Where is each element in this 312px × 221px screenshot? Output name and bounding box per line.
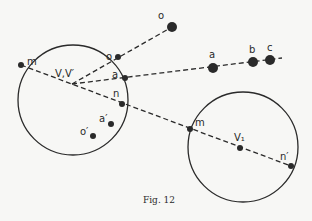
point-outer-a — [208, 63, 218, 73]
point-left-a-prime — [108, 121, 114, 127]
point-left-o-prime — [90, 133, 96, 139]
point-left-a — [122, 75, 128, 81]
figure-caption: Fig. 12 — [143, 195, 175, 205]
fig-12-diagram: m V,V′ o a n a′ o′ o a b c m V₁ n′ Fig. … — [0, 0, 312, 221]
label-left-a: a — [112, 69, 118, 80]
label-left-o: o — [106, 51, 112, 62]
label-left-n: n — [113, 88, 119, 99]
label-outer-a: a — [209, 49, 215, 60]
label-left-m: m — [27, 56, 37, 67]
label-left-o-prime: o′ — [80, 126, 89, 137]
point-right-m — [187, 126, 193, 132]
label-outer-o: o — [158, 10, 164, 21]
point-left-n — [119, 101, 125, 107]
point-outer-b — [248, 57, 258, 67]
point-outer-c — [265, 55, 275, 65]
point-left-m — [18, 62, 24, 68]
point-left-o — [115, 54, 121, 60]
ray-m-to-n-prime — [21, 65, 291, 166]
label-right-m: m — [195, 117, 205, 128]
point-right-v1 — [237, 145, 243, 151]
label-right-v1: V₁ — [234, 132, 245, 143]
point-outer-o — [167, 22, 177, 32]
label-left-a-prime: a′ — [99, 113, 108, 124]
point-right-n-prime — [288, 163, 294, 169]
label-outer-c: c — [267, 42, 273, 53]
label-outer-b: b — [249, 44, 255, 55]
label-vertex: V,V′ — [55, 68, 75, 79]
right-circle — [188, 92, 298, 202]
label-right-n-prime: n′ — [280, 151, 289, 162]
